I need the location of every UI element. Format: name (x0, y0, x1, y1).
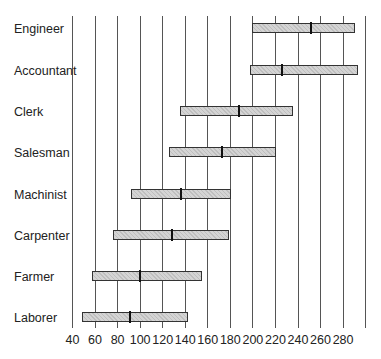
median-marker (139, 270, 141, 282)
x-tick-label: 40 (66, 333, 80, 347)
x-tick-label: 220 (265, 333, 286, 347)
category-label: Laborer (14, 311, 57, 325)
gridline (252, 16, 253, 328)
gridline (320, 16, 321, 328)
range-bar (82, 312, 188, 322)
gridline (275, 16, 276, 328)
x-tick-label: 160 (197, 333, 218, 347)
median-marker (180, 188, 182, 200)
category-label: Machinist (14, 188, 67, 202)
category-label: Accountant (14, 64, 77, 78)
gridline (207, 16, 208, 328)
median-marker (171, 229, 173, 241)
category-label: Carpenter (14, 229, 70, 243)
x-tick-label: 140 (175, 333, 196, 347)
median-marker (129, 311, 131, 323)
median-marker (221, 146, 223, 158)
gridline (95, 16, 96, 328)
category-label: Salesman (14, 146, 70, 160)
gridline (298, 16, 299, 328)
x-tick-label: 280 (333, 333, 354, 347)
median-marker (310, 22, 312, 34)
category-label: Engineer (14, 22, 64, 36)
gridline (230, 16, 231, 328)
gridline (343, 16, 344, 328)
category-label: Farmer (14, 270, 54, 284)
x-tick-label: 120 (152, 333, 173, 347)
range-chart: 406080100120140160180200220240260280Engi… (0, 0, 381, 359)
x-tick-label: 80 (111, 333, 125, 347)
x-tick-label: 200 (242, 333, 263, 347)
range-bar (252, 23, 355, 33)
x-tick-label: 100 (130, 333, 151, 347)
x-tick-label: 240 (288, 333, 309, 347)
range-bar (92, 271, 202, 281)
gridline (117, 16, 118, 328)
gridline (185, 16, 186, 328)
x-tick-label: 260 (310, 333, 331, 347)
range-bar (250, 65, 358, 75)
median-marker (238, 105, 240, 117)
gridline (72, 16, 73, 328)
median-marker (281, 64, 283, 76)
category-label: Clerk (14, 105, 43, 119)
gridline (162, 16, 163, 328)
range-bar (180, 106, 293, 116)
gridline (365, 16, 366, 328)
x-tick-label: 60 (88, 333, 102, 347)
x-tick-label: 180 (220, 333, 241, 347)
